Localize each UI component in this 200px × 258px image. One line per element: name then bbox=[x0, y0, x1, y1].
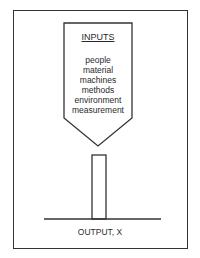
inputs-title: INPUTS bbox=[64, 32, 132, 42]
input-item: measurement bbox=[58, 105, 138, 115]
input-item: methods bbox=[58, 85, 138, 95]
inputs-list: people material machines methods environ… bbox=[58, 55, 138, 115]
input-item: material bbox=[58, 65, 138, 75]
output-label: OUTPUT, X bbox=[60, 227, 140, 237]
input-item: people bbox=[58, 55, 138, 65]
input-item: machines bbox=[58, 75, 138, 85]
input-item: environment bbox=[58, 95, 138, 105]
output-bar bbox=[92, 155, 106, 219]
